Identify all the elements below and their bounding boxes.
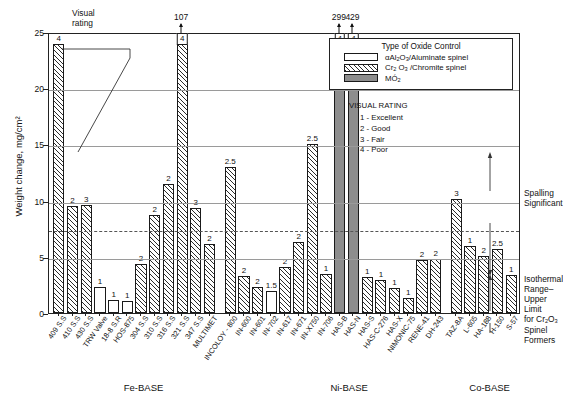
bar[interactable]: [225, 167, 236, 313]
isothermal-line-5: Spinel: [524, 325, 563, 335]
legend-swatch-chromite: [344, 64, 378, 72]
bar[interactable]: [293, 242, 304, 313]
visual-rating-label: 4: [57, 35, 61, 43]
visual-rating-label: 2: [242, 267, 246, 275]
visual-rating-label: 1: [406, 289, 410, 297]
bar[interactable]: [451, 199, 462, 313]
visual-rating-label: 1: [111, 291, 115, 299]
group-label-co-base: Co-BASE: [469, 382, 510, 393]
legend-swatch-alumina: [344, 53, 378, 61]
isothermal-line-4: for Cr2O3: [524, 314, 563, 325]
bar[interactable]: [403, 298, 414, 313]
offscale-arrow-head: [350, 23, 354, 27]
bar[interactable]: [375, 280, 386, 313]
visual-rating-label: 1: [468, 237, 472, 245]
isothermal-line-1: Isothermal: [524, 274, 563, 284]
x-axis-labels: 409 S.S410 S.S430 S.STRW Valve18-8 S.RHO…: [48, 314, 520, 376]
threshold-dashed-line: [49, 231, 519, 232]
bar[interactable]: [430, 259, 441, 313]
gridline-20: [49, 90, 519, 91]
visual-rating-key-title: VISUAL RATING: [349, 101, 489, 110]
offscale-value-label: 429: [345, 12, 359, 22]
visual-rating-item-2: 2 - Good: [360, 124, 489, 135]
visual-rating-label: 2: [296, 233, 300, 241]
visual-rating-label: 1: [392, 279, 396, 287]
visual-rating-label: 2: [166, 175, 170, 183]
visual-rating-label: 1: [379, 271, 383, 279]
annotation-isothermal-range: Isothermal Range– Upper Limit for Cr2O3 …: [524, 274, 563, 345]
y-axis: Weight change, mg/cm² 0510152025: [0, 33, 48, 314]
isothermal-line-2: Range–: [524, 284, 563, 294]
group-label-fe-base: Fe-BASE: [124, 382, 164, 393]
visual-rating-label: 2: [152, 206, 156, 214]
bar[interactable]: [307, 144, 318, 313]
bar[interactable]: [53, 44, 64, 313]
visual-rating-label: 1: [125, 292, 129, 300]
visual-rating-label: 4: [177, 33, 187, 45]
offscale-arrow-head: [179, 23, 183, 27]
bar[interactable]: [204, 244, 215, 313]
visual-rating-label: 2.5: [225, 158, 236, 166]
bar[interactable]: [464, 246, 475, 313]
y-axis-label: Weight change, mg/cm²: [13, 57, 24, 277]
bar[interactable]: [122, 301, 133, 313]
visual-rating-item-3: 3 - Fair: [360, 135, 489, 146]
bar[interactable]: [416, 260, 427, 313]
annotation-spalling-significant: Spalling Significant: [524, 188, 563, 208]
legend-title: Type of Oxide Control: [330, 42, 512, 51]
visual-rating-label: 2.5: [307, 135, 318, 143]
legend-label-chromite: Cr2 O3 /Chromite spinel: [385, 63, 466, 72]
visual-rating-label: 1: [98, 278, 102, 286]
spalling-line-1: Spalling: [524, 188, 563, 198]
visual-rating-label: 2: [70, 197, 74, 205]
offscale-arrow-head: [337, 23, 341, 27]
visual-rating-label: 1: [324, 265, 328, 273]
offscale-value-label: 107: [174, 12, 188, 22]
bar[interactable]: [266, 291, 277, 313]
bar[interactable]: [177, 42, 188, 313]
bar[interactable]: [190, 208, 201, 313]
visual-rating-callout-text: Visual rating: [72, 9, 95, 29]
visual-rating-label: 2: [433, 250, 437, 258]
gridline-5: [49, 259, 519, 260]
bar[interactable]: [238, 276, 249, 313]
spalling-line-2: Significant: [524, 198, 563, 208]
bar[interactable]: [135, 264, 146, 313]
legend-label-alumina: αAl2O3/Aluminate spinel: [385, 53, 468, 62]
visual-rating-label: 3: [454, 190, 458, 198]
bar[interactable]: [252, 287, 263, 313]
visual-rating-label: 1.5: [266, 282, 277, 290]
annotation-leader-lines: [486, 33, 524, 333]
gridline-10: [49, 203, 519, 204]
legend-swatch-mo2: [344, 74, 378, 82]
callout-line-2: rating: [72, 19, 95, 29]
bar[interactable]: [320, 274, 331, 313]
visual-rating-item-4: 4 - Poor: [360, 145, 489, 156]
visual-rating-key: VISUAL RATING 1 - Excellent 2 - Good 3 -…: [349, 101, 489, 156]
legend-label-mo2: MÓ2: [385, 74, 401, 83]
bar[interactable]: [94, 287, 105, 313]
bar[interactable]: [362, 277, 373, 313]
isothermal-line-6: Formers: [524, 335, 563, 345]
visual-rating-label: 2: [207, 235, 211, 243]
group-label-ni-base: Ni-BASE: [330, 382, 367, 393]
visual-rating-label: 1: [365, 268, 369, 276]
bar[interactable]: [279, 267, 290, 313]
bar[interactable]: [108, 300, 119, 313]
offscale-value-label: 299: [332, 12, 346, 22]
bar[interactable]: [389, 288, 400, 313]
visual-rating-item-1: 1 - Excellent: [360, 113, 489, 124]
visual-rating-label: 2: [255, 278, 259, 286]
isothermal-line-3: Upper Limit: [524, 294, 563, 314]
